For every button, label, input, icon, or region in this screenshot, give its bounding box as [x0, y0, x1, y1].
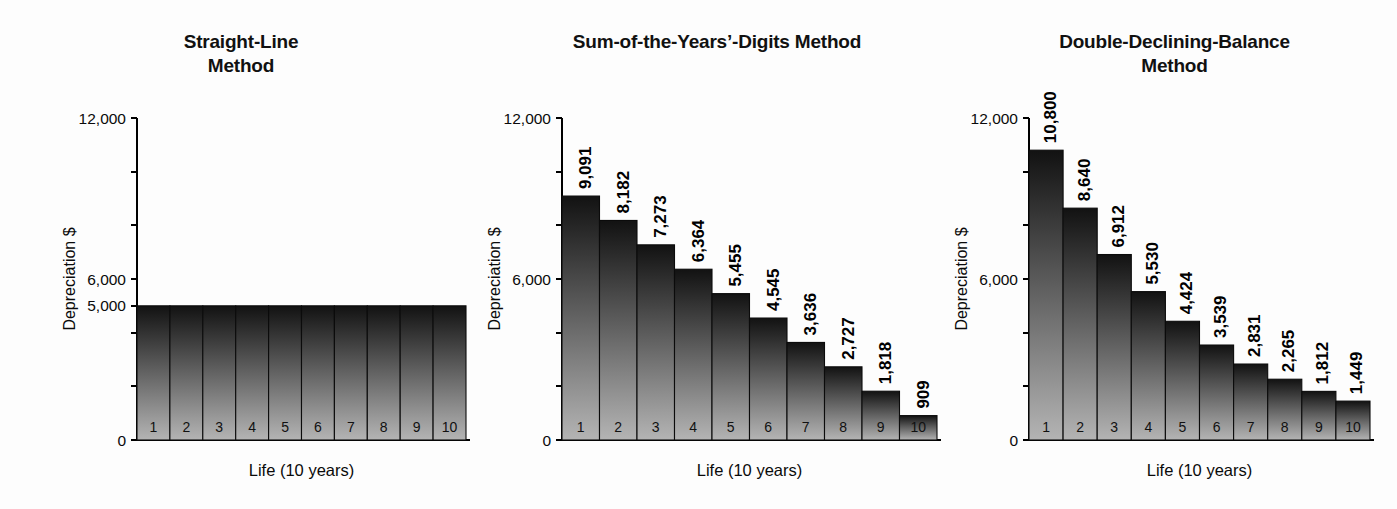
x-axis-category-label: 2: [614, 419, 622, 435]
bar-value-label: 2,727: [839, 317, 858, 360]
bar: [600, 220, 638, 440]
x-axis-category-label: 9: [413, 419, 421, 435]
x-axis-category-label: 7: [347, 419, 355, 435]
bar-value-label: 9,091: [576, 147, 595, 190]
bar-value-label: 4,545: [764, 268, 783, 311]
x-axis-title: Life (10 years): [697, 461, 802, 479]
bar-value-label: 1,812: [1313, 342, 1332, 385]
y-axis-tick-label: 6,000: [87, 271, 126, 288]
bar: [1097, 255, 1131, 440]
y-axis-tick-label: 12,000: [79, 110, 127, 127]
x-axis-category-label: 6: [1213, 419, 1221, 435]
bar-value-label: 3,539: [1211, 295, 1230, 338]
bar-value-label: 4,424: [1177, 271, 1196, 314]
bar-value-label: 909: [914, 380, 933, 408]
x-axis-category-label: 10: [910, 419, 926, 435]
x-axis-category-label: 3: [215, 419, 223, 435]
x-axis-category-label: 4: [248, 419, 256, 435]
bar-value-label: 6,364: [689, 219, 708, 262]
y-axis-tick-label: 0: [1009, 432, 1018, 449]
x-axis-category-label: 2: [1076, 419, 1084, 435]
bar-value-label: 1,449: [1347, 352, 1366, 395]
x-axis-category-label: 6: [314, 419, 322, 435]
chart-canvas-double-declining-balance: 06,00012,000Depreciation $110,80028,6403…: [952, 0, 1397, 509]
y-axis-tick-label: 0: [117, 432, 126, 449]
bar-value-label: 8,640: [1075, 159, 1094, 202]
x-axis-category-label: 3: [1110, 419, 1118, 435]
x-axis-category-label: 5: [727, 419, 735, 435]
bar-value-label: 1,818: [876, 342, 895, 385]
x-axis-title: Life (10 years): [249, 461, 354, 479]
x-axis-category-label: 2: [182, 419, 190, 435]
bar-value-label: 5,455: [726, 244, 745, 287]
bar: [1063, 208, 1097, 440]
bar-value-label: 5,530: [1143, 242, 1162, 285]
y-axis-tick-label: 0: [542, 432, 551, 449]
x-axis-category-label: 1: [150, 419, 158, 435]
y-axis-tick-label: 6,000: [979, 271, 1018, 288]
x-axis-category-label: 10: [442, 419, 458, 435]
y-axis-tick-label: 12,000: [971, 110, 1019, 127]
bar-value-label: 8,182: [614, 171, 633, 214]
bar-value-label: 3,636: [801, 293, 820, 336]
x-axis-category-label: 7: [802, 419, 810, 435]
x-axis-category-label: 5: [1179, 419, 1187, 435]
x-axis-category-label: 6: [764, 419, 772, 435]
chart-panel-sum-of-years-digits: Sum-of-the-Years’-Digits Method 06,00012…: [482, 0, 952, 509]
y-axis-tick-label: 12,000: [504, 110, 552, 127]
bar-value-label: 2,831: [1245, 314, 1264, 357]
x-axis-category-label: 9: [1315, 419, 1323, 435]
x-axis-category-label: 7: [1247, 419, 1255, 435]
y-axis-title: Depreciation $: [61, 227, 78, 330]
y-axis-title: Depreciation $: [486, 227, 503, 330]
x-axis-category-label: 10: [1345, 419, 1361, 435]
y-axis-title: Depreciation $: [953, 227, 970, 330]
x-axis-category-label: 4: [689, 419, 697, 435]
chart-panel-row: Straight-Line Method 05,0006,00012,000De…: [0, 0, 1397, 509]
bar-value-label: 2,265: [1279, 330, 1298, 373]
bar: [637, 245, 675, 440]
x-axis-category-label: 9: [877, 419, 885, 435]
bar: [1029, 150, 1063, 440]
x-axis-category-label: 8: [380, 419, 388, 435]
bar-value-label: 6,912: [1109, 205, 1128, 248]
bar: [675, 269, 713, 440]
bar: [562, 196, 600, 440]
chart-panel-straight-line: Straight-Line Method 05,0006,00012,000De…: [0, 0, 482, 509]
x-axis-category-label: 5: [281, 419, 289, 435]
x-axis-category-label: 4: [1144, 419, 1152, 435]
chart-panel-double-declining-balance: Double-Declining-Balance Method 06,00012…: [952, 0, 1397, 509]
bar-value-label: 10,800: [1041, 91, 1060, 143]
y-axis-tick-label: 5,000: [87, 297, 126, 314]
x-axis-category-label: 8: [839, 419, 847, 435]
x-axis-category-label: 8: [1281, 419, 1289, 435]
y-axis-tick-label: 6,000: [512, 271, 551, 288]
x-axis-category-label: 1: [1042, 419, 1050, 435]
chart-canvas-sum-of-years-digits: 06,00012,000Depreciation $19,09128,18237…: [482, 0, 952, 509]
x-axis-title: Life (10 years): [1147, 461, 1252, 479]
bar: [1131, 292, 1165, 440]
x-axis-category-label: 3: [652, 419, 660, 435]
chart-canvas-straight-line: 05,0006,00012,000Depreciation $123456789…: [0, 0, 482, 509]
depreciation-methods-figure: Straight-Line Method 05,0006,00012,000De…: [0, 0, 1397, 509]
x-axis-category-label: 1: [577, 419, 585, 435]
bar-value-label: 7,273: [651, 195, 670, 238]
